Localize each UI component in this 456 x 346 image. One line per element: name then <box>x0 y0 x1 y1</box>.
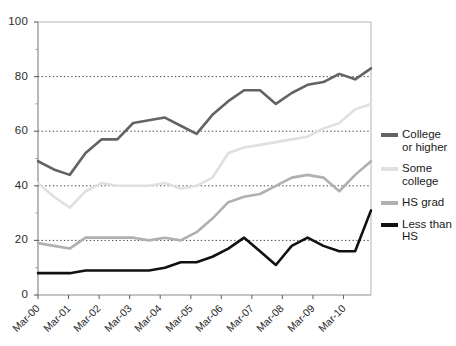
chart-container: 020406080100 Mar-00Mar-01Mar-02Mar-03Mar… <box>0 0 456 346</box>
legend-label-less-than-hs: Less thanHS <box>402 218 452 243</box>
chart-legend: Collegeor higher Somecollege HS grad Les… <box>381 128 456 252</box>
y-tick-label: 60 <box>2 124 28 136</box>
gridlines <box>38 77 371 241</box>
legend-swatch-hs-grad <box>381 201 398 205</box>
legend-item-college-or-higher: Collegeor higher <box>381 128 456 153</box>
y-tick-label: 100 <box>2 15 28 27</box>
series-line <box>38 210 371 273</box>
legend-swatch-less-than-hs <box>381 223 398 227</box>
legend-swatch-some-college <box>381 167 398 171</box>
axis-lines <box>38 22 371 295</box>
y-tick-label: 80 <box>2 70 28 82</box>
legend-label-some-college: Somecollege <box>402 162 438 187</box>
legend-item-some-college: Somecollege <box>381 162 456 187</box>
series-line <box>38 161 371 248</box>
legend-item-hs-grad: HS grad <box>381 196 456 209</box>
y-tick-label: 20 <box>2 233 28 245</box>
data-series <box>38 68 371 273</box>
series-line <box>38 104 371 208</box>
y-tick-label: 0 <box>2 288 28 300</box>
y-tick-label: 40 <box>2 179 28 191</box>
legend-swatch-college-or-higher <box>381 133 398 137</box>
legend-label-college-or-higher: Collegeor higher <box>402 128 447 153</box>
legend-item-less-than-hs: Less thanHS <box>381 218 456 243</box>
legend-label-hs-grad: HS grad <box>402 196 444 209</box>
series-line <box>38 68 371 174</box>
